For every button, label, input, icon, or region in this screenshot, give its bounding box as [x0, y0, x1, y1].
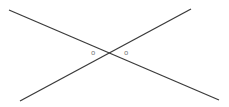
line-b [20, 9, 191, 101]
intersecting-lines-diagram: o o [0, 0, 229, 107]
line-a [9, 10, 219, 100]
angle-label-right: o [124, 49, 128, 57]
angle-label-left: o [91, 49, 95, 57]
